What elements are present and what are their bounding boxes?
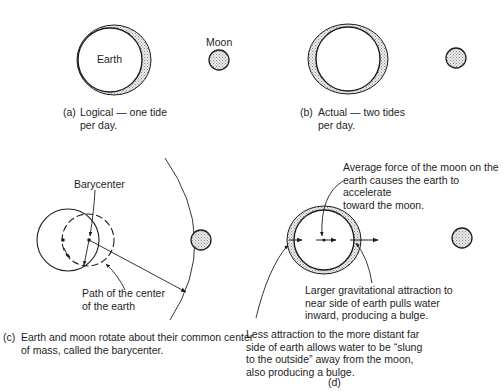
moon: [209, 50, 229, 70]
barycenter-leader: [90, 190, 95, 236]
far-side-note: Less attraction to the more distant far …: [246, 328, 422, 378]
far-side-leader: [256, 245, 288, 318]
caption-a-tag: (a): [63, 106, 76, 119]
caption-c: Earth and moon rotate about their common…: [21, 331, 253, 356]
rotation-radius-arrow: [84, 240, 89, 265]
panel-b-actual-tides: [308, 24, 466, 94]
average-force-note: Average force of the moon on the earth c…: [343, 161, 504, 211]
caption-a: Logical — one tide per day.: [80, 106, 167, 131]
moon-orbit-arc: [165, 158, 195, 320]
caption-b: Actual — two tides per day.: [318, 106, 405, 131]
moon: [452, 228, 472, 248]
caption-b-tag: (b): [300, 106, 313, 119]
barycenter-label: Barycenter: [74, 178, 125, 191]
center-path-label: Path of the center of the earth: [82, 287, 165, 312]
moon: [191, 230, 211, 250]
caption-c-tag: (c): [3, 331, 15, 344]
earth-label: Earth: [97, 53, 122, 66]
near-side-note: Larger gravitational attraction to near …: [305, 284, 453, 322]
caption-d: (d): [328, 376, 341, 389]
barycenter-to-moon-orbit-arrow: [89, 240, 186, 292]
earth-center-dot: [61, 238, 65, 242]
earth: [316, 27, 380, 91]
center-force-origin-dot: [322, 238, 325, 241]
moon-label: Moon: [206, 36, 232, 49]
moon: [446, 48, 466, 68]
